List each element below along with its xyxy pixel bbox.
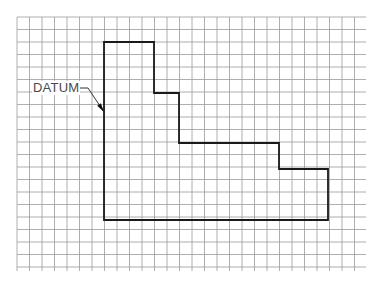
grid-diagram xyxy=(0,0,380,287)
l-shaped-outline xyxy=(104,42,328,220)
grid-lines xyxy=(17,17,366,271)
datum-label: DATUM xyxy=(32,81,80,95)
